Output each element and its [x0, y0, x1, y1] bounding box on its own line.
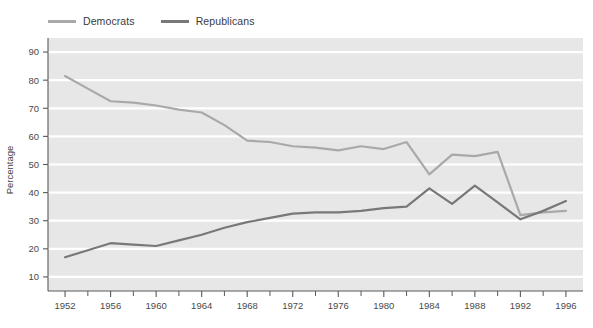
y-tick-label: 50	[28, 159, 39, 170]
x-tick-label: 1968	[237, 300, 258, 311]
chart-container: Democrats Republicans Percentage 1020304…	[0, 0, 593, 328]
x-axis-ticks: 1952195619601964196819721976198019841988…	[55, 291, 577, 311]
x-tick-label: 1984	[419, 300, 440, 311]
x-tick-label: 1952	[55, 300, 76, 311]
x-tick-label: 1988	[464, 300, 485, 311]
x-tick-label: 1956	[100, 300, 121, 311]
x-tick-label: 1972	[282, 300, 303, 311]
chart-plot: 102030405060708090 195219561960196419681…	[0, 0, 593, 328]
y-tick-label: 40	[28, 187, 39, 198]
y-tick-label: 10	[28, 271, 39, 282]
x-tick-label: 1960	[146, 300, 167, 311]
x-tick-label: 1964	[191, 300, 212, 311]
y-tick-label: 70	[28, 103, 39, 114]
y-tick-label: 30	[28, 215, 39, 226]
x-tick-label: 1980	[373, 300, 394, 311]
y-tick-label: 20	[28, 243, 39, 254]
x-tick-label: 1996	[555, 300, 576, 311]
x-tick-label: 1976	[328, 300, 349, 311]
y-tick-label: 90	[28, 46, 39, 57]
y-tick-label: 60	[28, 131, 39, 142]
y-axis-ticks: 102030405060708090	[28, 46, 48, 282]
y-tick-label: 80	[28, 75, 39, 86]
x-tick-label: 1992	[510, 300, 531, 311]
